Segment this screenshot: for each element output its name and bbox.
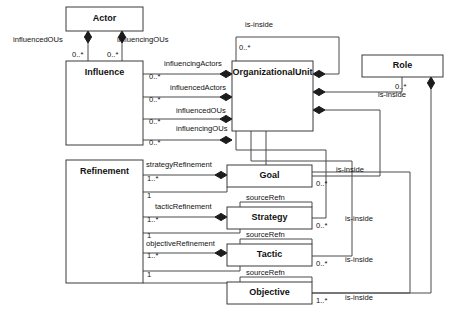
role-label-influencingActors: influencingActors [164, 59, 222, 68]
class-box-influence[interactable]: Influence [66, 61, 143, 145]
role-label-influencingOUs-top: influencingOUs [117, 35, 169, 44]
role-label-objectiveRefinement: objectiveRefinement [146, 239, 216, 248]
multiplicity-m-orgunit-inside: 0..* [239, 43, 250, 52]
class-name-strategy: Strategy [251, 212, 287, 222]
role-label-is-inside-objective: is-inside [345, 293, 373, 302]
aggregation-diamond-influencedOUs-edge [220, 115, 232, 122]
role-label-sourceRefn-tactic: sourceRefn [246, 230, 285, 239]
multiplicity-m-strategyref-1: 1 [147, 191, 151, 200]
uml-class-diagram: ActorInfluenceOrganizationalUnitRoleRefi… [0, 0, 454, 319]
diagram-canvas: ActorInfluenceOrganizationalUnitRoleRefi… [0, 0, 454, 319]
multiplicity-m-objectiveref-1: 1 [147, 270, 151, 279]
classes-layer: ActorInfluenceOrganizationalUnitRoleRefi… [66, 7, 443, 304]
class-name-objective: Objective [249, 287, 290, 297]
aggregation-diamond-influencingActors-edge [220, 70, 232, 77]
aggregation-diamond-influencingOUs-edge [220, 136, 232, 143]
edge-goal-sourceRefn-edge [143, 187, 227, 192]
class-box-strategy[interactable]: Strategy [227, 207, 312, 229]
class-name-orgunit: OrganizationalUnit [232, 67, 312, 77]
aggregation-diamond-actor-influence-left [84, 31, 91, 43]
class-box-refinement[interactable]: Refinement [66, 160, 143, 283]
class-box-rect-refinement [66, 160, 143, 283]
class-box-tactic[interactable]: Tactic [227, 244, 312, 266]
multiplicity-m-influenced-act: 0..* [149, 95, 160, 104]
class-box-goal[interactable]: Goal [227, 165, 312, 187]
role-label-influencedOUs-mid: influencedOUs [176, 106, 226, 115]
class-name-tactic: Tactic [257, 249, 282, 259]
role-label-is-inside-role: is-inside [378, 90, 406, 99]
class-name-influence: Influence [85, 67, 125, 77]
multiplicity-m-strategy-inside: 0..* [316, 221, 327, 230]
class-name-actor: Actor [93, 13, 117, 23]
aggregation-diamond-strategyRefinement-edge [215, 171, 227, 178]
multiplicity-m-actor-right: 0..* [107, 50, 118, 59]
multiplicity-m-tacticref-1s: 1..* [147, 215, 158, 224]
multiplicity-m-role-inside: 0..* [395, 82, 406, 91]
role-label-strategyRefinement: strategyRefinement [146, 160, 213, 169]
role-label-is-inside-strategy: is-inside [345, 214, 373, 223]
role-label-influencingOUs-mid: influencingOUs [176, 124, 228, 133]
multiplicity-m-objectiveref-1s: 1..* [147, 251, 158, 260]
multiplicity-m-strategyref-1s: 1..* [147, 174, 158, 183]
role-label-influencedActors: influencedActors [170, 83, 226, 92]
aggregation-diamond-influencedActors-edge [220, 93, 232, 100]
aggregation-diamond-objectiveRefinement-edge [215, 249, 227, 256]
class-box-actor[interactable]: Actor [66, 7, 143, 31]
class-name-role: Role [393, 60, 413, 70]
multiplicity-m-influenced-ous: 0..* [149, 117, 160, 126]
role-label-sourceRefn-strategy: sourceRefn [246, 193, 285, 202]
multiplicity-m-tacticref-1: 1 [147, 231, 151, 240]
multiplicity-m-objective-inside: 1..* [316, 296, 327, 305]
class-name-refinement: Refinement [80, 166, 129, 176]
role-label-is-inside-tactic: is-inside [345, 255, 373, 264]
aggregation-diamond-goal-orgunit-is-inside [313, 106, 325, 113]
class-name-goal: Goal [259, 170, 279, 180]
class-box-objective[interactable]: Objective [227, 282, 312, 304]
multiplicity-m-influencing-ous: 0..* [149, 138, 160, 147]
aggregation-diamond-role-vertical-inside [427, 77, 434, 89]
role-label-influencedOUs-top: influencedOUs [13, 35, 63, 44]
role-label-is-inside-orgunit: is-inside [245, 20, 273, 29]
role-label-is-inside-goal: is-inside [336, 165, 364, 174]
class-box-orgunit[interactable]: OrganizationalUnit [232, 61, 313, 131]
aggregation-diamond-role-orgunit-is-inside [313, 88, 325, 95]
aggregation-diamond-tacticRefinement-edge [215, 213, 227, 220]
role-label-tacticRefinement: tacticRefinement [155, 202, 212, 211]
class-box-role[interactable]: Role [362, 55, 443, 77]
aggregation-diamond-orgunit-self-is-inside [313, 70, 325, 77]
role-label-sourceRefn-objective: sourceRefn [246, 268, 285, 277]
multiplicity-m-actor-left: 0..* [72, 50, 83, 59]
multiplicity-m-influencing-act: 0..* [149, 72, 160, 81]
multiplicity-m-goal-inside: 0..* [316, 179, 327, 188]
multiplicity-m-tactic-inside: 0..* [316, 259, 327, 268]
